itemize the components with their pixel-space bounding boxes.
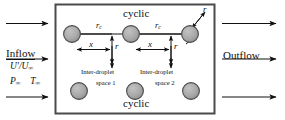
x-left-label: x <box>89 40 93 49</box>
inter-droplet-space-1-line1: Inter-droplet <box>81 69 114 76</box>
droplet <box>71 83 88 100</box>
rc-right-label: rc <box>155 21 161 31</box>
droplet <box>182 26 199 43</box>
droplet <box>123 26 140 43</box>
inter-droplet-space-1-line2: space 1 <box>96 80 116 87</box>
inter-droplet-space-2-line2: space 2 <box>155 80 175 87</box>
cyclic-top-label: cyclic <box>123 8 149 19</box>
r-right-label: r <box>174 42 178 51</box>
inflow-label: Inflow <box>6 48 35 60</box>
droplet <box>183 83 200 100</box>
droplet <box>64 26 81 43</box>
inflow-velocity-label: U'/U∞ <box>10 62 33 72</box>
droplet-radius-label: r <box>203 5 207 14</box>
x-right-label: x <box>148 40 152 49</box>
inflow-pressure-temperature-label: P∞ T∞ <box>10 77 40 87</box>
r-left-label: r <box>115 42 119 51</box>
figure-canvas: cyclic cyclic Inflow U'/U∞ P∞ T∞ Outflow… <box>0 0 285 120</box>
outflow-label: Outflow <box>223 50 260 61</box>
cyclic-bottom-label: cyclic <box>123 98 149 109</box>
rc-left-label: rc <box>96 21 102 31</box>
inter-droplet-space-2-line1: Inter-droplet <box>140 69 173 76</box>
